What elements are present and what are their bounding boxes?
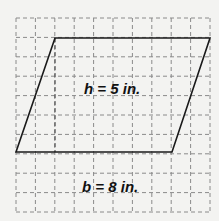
parallelogram-diagram: h = 5 in. b = 8 in. [0, 0, 219, 221]
base-label: b = 8 in. [82, 178, 138, 195]
height-label: h = 5 in. [84, 80, 140, 97]
